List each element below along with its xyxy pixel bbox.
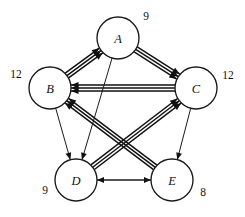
edge-a-to-c	[134, 47, 180, 79]
edge-line	[56, 108, 71, 160]
edge-b-to-d	[56, 108, 71, 160]
node-label: B	[46, 82, 54, 96]
edge-line	[137, 47, 180, 74]
node-a[interactable]: A	[97, 17, 139, 59]
node-d[interactable]: D	[55, 159, 97, 201]
edge-e-to-d	[97, 177, 151, 183]
node-c[interactable]: C	[175, 67, 217, 109]
node-e[interactable]: E	[151, 159, 193, 201]
node-label: C	[192, 82, 201, 96]
arrow-head-icon	[81, 152, 87, 160]
node-weight-e: 8	[200, 186, 206, 198]
node-label: E	[167, 174, 176, 188]
arrow-head-icon	[97, 177, 104, 183]
node-weight-d: 9	[42, 184, 48, 196]
node-weight-b: 12	[10, 68, 22, 80]
edge-line	[134, 52, 177, 79]
diagram-canvas: ABCDE 9121298	[0, 0, 245, 217]
edge-line	[177, 108, 190, 159]
edge-line	[136, 49, 179, 76]
node-label: D	[70, 174, 80, 188]
edge-line	[82, 58, 112, 160]
node-b[interactable]: B	[29, 67, 71, 109]
edge-c-to-b	[71, 82, 175, 94]
arrow-head-icon	[66, 152, 72, 160]
node-weight-c: 12	[222, 69, 234, 81]
directed-graph: ABCDE 9121298	[0, 0, 245, 217]
node-label: A	[113, 32, 122, 46]
edge-b-to-a	[65, 48, 103, 78]
edge-c-to-e	[176, 108, 190, 159]
node-weight-a: 9	[143, 10, 149, 22]
node-layer: ABCDE	[29, 17, 217, 201]
edge-a-to-d	[81, 58, 112, 160]
